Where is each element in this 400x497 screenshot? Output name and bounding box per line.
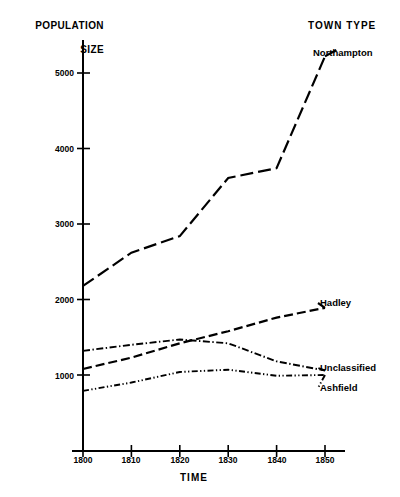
series-label-hadley: Hadley — [320, 297, 351, 308]
x-tick-label-1810: 1810 — [111, 455, 151, 465]
axes-group — [72, 40, 345, 457]
x-tick-label-1830: 1830 — [208, 455, 248, 465]
x-tick-label-1840: 1840 — [257, 455, 297, 465]
y-tick-label-5000: 5000 — [34, 68, 74, 78]
series-line-northampton — [83, 56, 325, 286]
x-tick-label-1850: 1850 — [305, 455, 345, 465]
x-tick-label-1820: 1820 — [160, 455, 200, 465]
series-line-unclassified — [83, 340, 325, 371]
label-leader-lines — [318, 48, 340, 388]
y-tick-label-3000: 3000 — [34, 219, 74, 229]
series-label-unclassified: Unclassified — [320, 362, 376, 373]
y-tick-label-1000: 1000 — [34, 371, 74, 381]
series-label-northampton: Northampton — [313, 47, 373, 58]
y-tick-label-4000: 4000 — [34, 144, 74, 154]
series-line-hadley — [83, 308, 325, 369]
y-axis-title-line2: SIZE — [8, 44, 104, 56]
population-size-line-chart: POPULATION SIZE TOWN TYPE TIME 5000 4000… — [0, 0, 400, 497]
series-lines-group — [83, 56, 325, 390]
x-tick-label-1800: 1800 — [63, 455, 103, 465]
series-line-ashfield — [83, 370, 325, 391]
x-axis-title: TIME — [180, 472, 208, 484]
y-tick-label-2000: 2000 — [34, 295, 74, 305]
legend-title: TOWN TYPE — [308, 20, 376, 32]
series-label-ashfield: Ashfield — [320, 382, 357, 393]
y-axis-title-line1: POPULATION — [35, 20, 104, 31]
